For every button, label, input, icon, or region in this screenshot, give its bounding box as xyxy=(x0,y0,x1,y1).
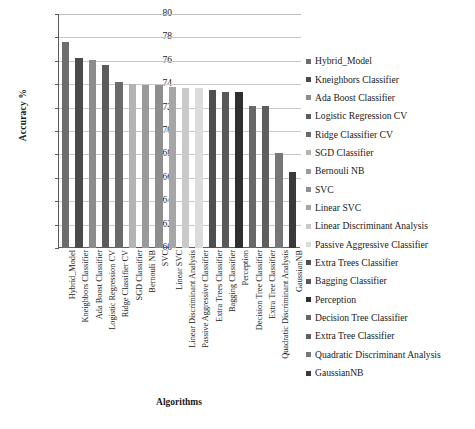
bar-slot xyxy=(206,14,219,248)
legend-label: Decision Tree Classifier xyxy=(315,313,408,323)
legend-item[interactable]: Bernouli NB xyxy=(306,162,474,180)
legend-label: Bernouli NB xyxy=(315,166,364,176)
x-tick-label: Ridge Classifier CV xyxy=(122,250,130,317)
x-tick-label: Decision Tree Classifier xyxy=(256,250,264,330)
x-tick-label: Extra Trees Classifier xyxy=(216,250,224,322)
bar-slot xyxy=(259,14,272,248)
legend-item[interactable]: Logistic Regression CV xyxy=(306,107,474,125)
bar xyxy=(289,172,296,248)
x-tick-label: Kneighbors Classifier xyxy=(82,250,90,323)
legend-swatch-icon xyxy=(306,114,311,119)
legend-label: SGD Classifier xyxy=(315,148,373,158)
legend-swatch-icon xyxy=(306,150,311,155)
legend-swatch-icon xyxy=(306,95,311,100)
x-tick-label: Bagging Classifier xyxy=(229,250,237,312)
bar-slot xyxy=(232,14,245,248)
bar-slot xyxy=(112,14,125,248)
bar xyxy=(249,106,256,248)
legend-label: Extra Tree Classifier xyxy=(315,331,394,341)
legend-item[interactable]: Bagging Classifier xyxy=(306,272,474,290)
bar-slot xyxy=(86,14,99,248)
bar-slot xyxy=(126,14,139,248)
x-tick-label: Linear Discriminant Analysis xyxy=(189,250,197,348)
legend-item[interactable]: GaussianNB xyxy=(306,364,474,382)
legend-swatch-icon xyxy=(306,242,311,247)
legend-label: Passive Aggressive Classifier xyxy=(315,240,428,250)
y-tick-mark xyxy=(55,248,59,249)
x-tick-label: Linear SVC xyxy=(176,250,184,290)
bar xyxy=(235,92,242,248)
bar xyxy=(209,90,216,248)
y-axis-title: Accuracy % xyxy=(18,70,28,160)
bar xyxy=(89,60,96,248)
bar xyxy=(182,88,189,248)
legend-item[interactable]: SGD Classifier xyxy=(306,144,474,162)
bar-series xyxy=(59,14,300,248)
legend-label: Perception xyxy=(315,295,356,305)
bar xyxy=(262,106,269,248)
x-tick-label: Hybrid_Model xyxy=(69,250,77,299)
legend-label: Linear SVC xyxy=(315,203,361,213)
legend-swatch-icon xyxy=(306,77,311,82)
bar xyxy=(142,85,149,248)
x-tick-label: Perception xyxy=(242,250,250,285)
bar-chart: Accuracy % 8078767472706866646260 Hybrid… xyxy=(0,0,475,429)
bar xyxy=(222,92,229,248)
legend-label: Ada Boost Classifier xyxy=(315,93,395,103)
bar xyxy=(62,42,69,248)
legend-label: Bagging Classifier xyxy=(315,276,387,286)
bar-slot xyxy=(272,14,285,248)
x-tick-label: Passive Aggressive Classifier xyxy=(202,250,210,348)
legend-label: Extra Trees Classifier xyxy=(315,258,398,268)
legend-item[interactable]: Ridge Classifier CV xyxy=(306,125,474,143)
legend-label: SVC xyxy=(315,185,334,195)
legend-item[interactable]: Ada Boost Classifier xyxy=(306,89,474,107)
legend-item[interactable]: Linear SVC xyxy=(306,199,474,217)
x-tick-label: SGD Classifier xyxy=(136,250,144,300)
legend-label: Quadratic Discriminant Analysis xyxy=(315,350,441,360)
bar xyxy=(155,85,162,248)
legend-item[interactable]: Perception xyxy=(306,290,474,308)
legend-swatch-icon xyxy=(306,334,311,339)
legend-label: Ridge Classifier CV xyxy=(315,130,393,140)
legend-item[interactable]: Hybrid_Model xyxy=(306,52,474,70)
bar-slot xyxy=(179,14,192,248)
bar xyxy=(115,82,122,248)
legend-item[interactable]: Passive Aggressive Classifier xyxy=(306,235,474,253)
legend-item[interactable]: Extra Trees Classifier xyxy=(306,254,474,272)
legend-item[interactable]: Kneighbors Classifier xyxy=(306,70,474,88)
x-axis-ticks: Hybrid_ModelKneighbors ClassifierAda Boo… xyxy=(59,250,300,390)
legend-label: Hybrid_Model xyxy=(315,56,372,66)
legend-swatch-icon xyxy=(306,279,311,284)
x-tick-label: GaussianNB xyxy=(296,250,304,292)
x-tick-label: Extra Tree Classifier xyxy=(269,250,277,319)
legend-item[interactable]: SVC xyxy=(306,180,474,198)
chart-legend: Hybrid_ModelKneighbors ClassifierAda Boo… xyxy=(306,52,474,382)
x-tick-label: Logistic Regression CV xyxy=(109,250,117,330)
legend-label: Logistic Regression CV xyxy=(315,111,407,121)
legend-item[interactable]: Quadratic Discriminant Analysis xyxy=(306,346,474,364)
legend-swatch-icon xyxy=(306,352,311,357)
legend-swatch-icon xyxy=(306,297,311,302)
bar-slot xyxy=(139,14,152,248)
legend-swatch-icon xyxy=(306,205,311,210)
x-tick-label: Ada Boost Classifier xyxy=(96,250,104,319)
bar-slot xyxy=(72,14,85,248)
bar xyxy=(275,153,282,248)
bar-slot xyxy=(286,14,299,248)
bar xyxy=(75,58,82,248)
legend-swatch-icon xyxy=(306,224,311,229)
legend-label: Kneighbors Classifier xyxy=(315,75,399,85)
legend-item[interactable]: Decision Tree Classifier xyxy=(306,309,474,327)
x-tick-label: SVC xyxy=(162,250,170,266)
legend-item[interactable]: Linear Discriminant Analysis xyxy=(306,217,474,235)
legend-swatch-icon xyxy=(306,260,311,265)
bar xyxy=(102,65,109,248)
bar-slot xyxy=(192,14,205,248)
bar-slot xyxy=(99,14,112,248)
legend-item[interactable]: Extra Tree Classifier xyxy=(306,327,474,345)
legend-swatch-icon xyxy=(306,169,311,174)
bar xyxy=(195,88,202,248)
bar-slot xyxy=(59,14,72,248)
legend-label: Linear Discriminant Analysis xyxy=(315,221,428,231)
